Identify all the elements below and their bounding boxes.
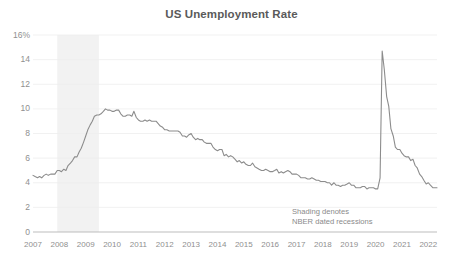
y-axis-tick-label: 16% xyxy=(4,31,30,40)
annotation-line-1: Shading denotes xyxy=(292,207,373,217)
y-axis-tick-label: 12 xyxy=(4,80,30,89)
annotation-line-2: NBER dated recessions xyxy=(292,217,373,227)
y-axis-tick-label: 2 xyxy=(4,203,30,212)
y-axis-tick-label: 4 xyxy=(4,178,30,187)
y-axis-tick-label: 6 xyxy=(4,154,30,163)
chart-plot-area xyxy=(0,0,463,263)
y-axis-tick-label: 0 xyxy=(4,228,30,237)
y-axis-tick-label: 8 xyxy=(4,129,30,138)
unemployment-rate-chart: US Unemployment Rate 0246810121416% 2007… xyxy=(0,0,463,263)
y-axis-tick-label: 10 xyxy=(4,104,30,113)
y-axis-tick-label: 14 xyxy=(4,55,30,64)
x-axis-tick-label: 2022 xyxy=(413,240,443,249)
shading-annotation: Shading denotes NBER dated recessions xyxy=(292,207,373,227)
